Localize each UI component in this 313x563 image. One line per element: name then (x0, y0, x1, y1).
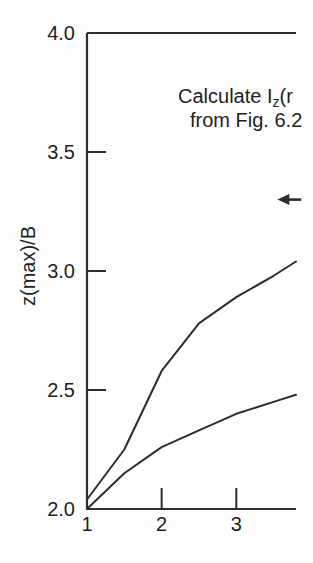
lower-curve (87, 395, 296, 509)
y-tick-label: 4.0 (37, 22, 75, 44)
left-arrow-icon (277, 194, 289, 205)
y-tick-label: 3.5 (37, 141, 75, 163)
x-tick-label: 1 (75, 513, 99, 535)
x-tick-label: 2 (150, 513, 174, 535)
annotation-text-line-1: Calculate Iz(r (178, 85, 293, 110)
y-tick-label: 3.0 (37, 260, 75, 282)
annotation-text-post: (r (280, 85, 293, 107)
figure-canvas: z(max)/B Calculate Iz(r from Fig. 6.2 2.… (0, 0, 313, 563)
y-tick-label: 2.0 (37, 498, 75, 520)
annotation-text-pre: Calculate I (178, 85, 273, 107)
upper-curve (87, 261, 296, 499)
annotation-subscript-z: z (273, 94, 280, 110)
annotation-text-line-2: from Fig. 6.2 (190, 109, 302, 132)
y-tick-label: 2.5 (37, 379, 75, 401)
x-tick-label: 3 (224, 513, 248, 535)
